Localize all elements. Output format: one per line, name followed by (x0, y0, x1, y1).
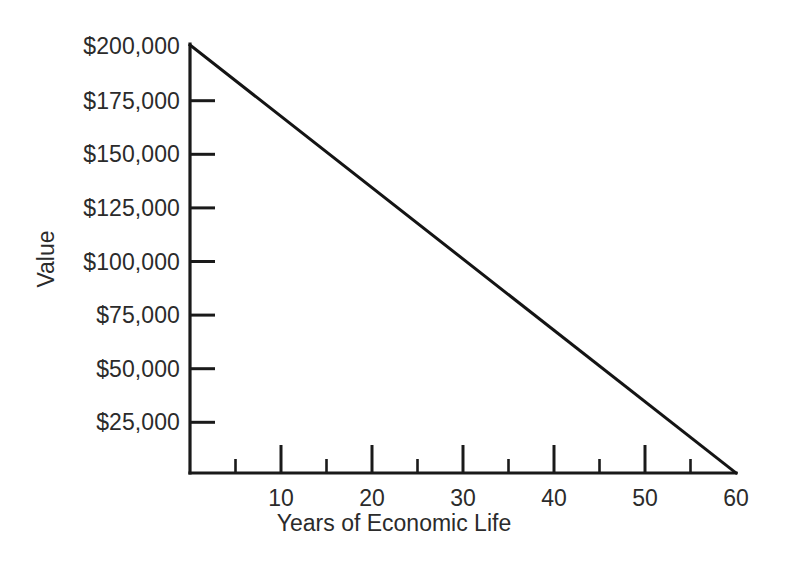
y-tick-label: $200,000 (83, 33, 180, 60)
x-tick-label: 20 (359, 485, 385, 512)
x-tick-label: 10 (268, 485, 294, 512)
data-line-series-1 (190, 45, 736, 473)
chart-figure: $200,000 $175,000 $150,000 $125,000 $100… (0, 0, 788, 568)
y-tick-label: $25,000 (96, 409, 180, 436)
x-tick-label: 60 (723, 485, 749, 512)
x-axis-title: Years of Economic Life (0, 510, 788, 537)
x-tick-label: 50 (632, 485, 658, 512)
x-tick-label: 30 (450, 485, 476, 512)
y-tick-label: $75,000 (96, 302, 180, 329)
y-axis-title: Value (33, 230, 60, 287)
x-tick-marks-major (281, 445, 645, 473)
x-tick-label: 40 (541, 485, 567, 512)
y-tick-label: $50,000 (96, 355, 180, 382)
plot-area (0, 0, 788, 568)
y-tick-label: $125,000 (83, 194, 180, 221)
y-tick-marks (190, 101, 215, 423)
y-tick-label: $150,000 (83, 141, 180, 168)
y-tick-label: $100,000 (83, 248, 180, 275)
y-tick-label: $175,000 (83, 87, 180, 114)
